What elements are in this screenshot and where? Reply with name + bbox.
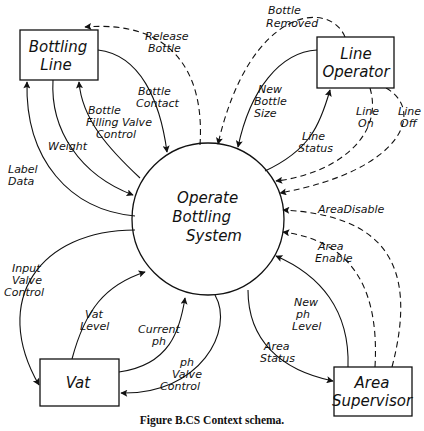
svg-text:LineOn: LineOn: [356, 105, 379, 130]
svg-text:AreaEnable: AreaEnable: [315, 240, 353, 265]
flow-area-disable: AreaDisable: [283, 203, 401, 367]
flow-vat-level: VatLevel: [72, 272, 145, 359]
svg-text:phValveControl: phValveControl: [160, 356, 202, 393]
svg-text:Weight: Weight: [48, 140, 88, 153]
entity-area-supervisor: AreaSupervisor: [332, 367, 413, 416]
svg-text:Vat: Vat: [66, 374, 91, 392]
svg-text:BottleRemoved: BottleRemoved: [266, 4, 319, 30]
svg-text:VatLevel: VatLevel: [80, 308, 109, 333]
svg-text:InputValveControl: InputValveControl: [4, 262, 44, 299]
svg-text:NewphLevel: NewphLevel: [292, 296, 321, 333]
flow-current-ph: Currentph: [119, 298, 185, 372]
process-label-line-1: Operate: [177, 189, 238, 207]
svg-text:ReleaseBottle: ReleaseBottle: [145, 30, 189, 55]
flow-area-status: AreaStatus: [248, 290, 333, 381]
svg-text:LineStatus: LineStatus: [298, 130, 333, 155]
svg-text:AreaDisable: AreaDisable: [317, 203, 385, 216]
entity-bottling-line: BottlingLine: [20, 30, 98, 80]
process-operate-bottling-system: Operate Bottling System: [132, 143, 284, 295]
svg-text:LabelData: LabelData: [8, 163, 38, 188]
entity-line-operator: LineOperator: [317, 37, 394, 88]
figure-caption: Figure B.CS Context schema.: [0, 414, 424, 426]
flow-ph-valve-control: phValveControl: [121, 295, 221, 393]
flow-line-on: LineOn: [276, 88, 379, 181]
svg-text:Currentph: Currentph: [138, 323, 180, 348]
process-label-line-2: Bottling: [172, 208, 231, 226]
svg-text:NewBottleSize: NewBottleSize: [254, 83, 287, 120]
context-schema-diagram: Operate Bottling System ReleaseBottle Bo…: [0, 0, 424, 431]
svg-text:LineOff: LineOff: [398, 105, 421, 130]
svg-text:AreaStatus: AreaStatus: [260, 340, 295, 365]
entity-vat: Vat: [40, 359, 119, 406]
svg-text:BottleContact: BottleContact: [136, 85, 179, 110]
process-label-line-3: System: [186, 227, 242, 245]
